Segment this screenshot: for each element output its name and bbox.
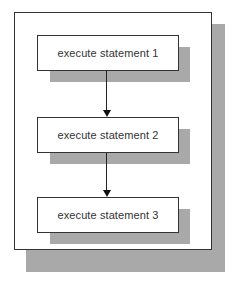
arrow-1-to-2-line bbox=[106, 71, 107, 111]
statement-2-label: execute statement 2 bbox=[58, 129, 159, 141]
statement-3-box: execute statement 3 bbox=[37, 197, 179, 233]
arrow-2-to-3-line bbox=[106, 153, 107, 191]
arrow-down-icon bbox=[103, 190, 111, 197]
arrow-down-icon bbox=[103, 110, 111, 117]
statement-3-label: execute statement 3 bbox=[58, 209, 159, 221]
statement-1-label: execute statement 1 bbox=[58, 47, 159, 59]
statement-1-box: execute statement 1 bbox=[37, 35, 179, 71]
statement-2-box: execute statement 2 bbox=[37, 117, 179, 153]
